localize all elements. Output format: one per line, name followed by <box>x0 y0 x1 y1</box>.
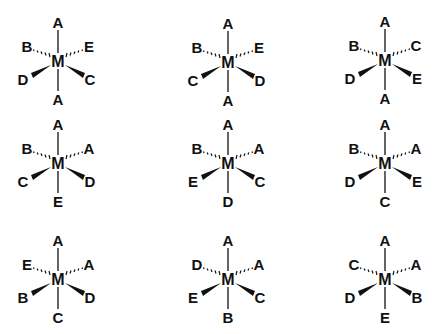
ligand-top: A <box>223 116 234 133</box>
ligand-top: A <box>380 13 391 30</box>
ligand-hash-right: E <box>254 39 264 56</box>
structure-5: M A D B A E C <box>188 116 266 210</box>
ligand-hash-right: E <box>84 38 94 55</box>
structure-4: M A E B A C D <box>18 116 96 210</box>
structure-9: M A E C A D B <box>345 232 423 326</box>
ligand-hash-right: A <box>254 140 265 157</box>
ligand-bottom: E <box>380 309 390 326</box>
ligand-wedge-right: C <box>85 71 96 88</box>
ligand-hash-left: B <box>349 140 360 157</box>
ligand-wedge-left: C <box>188 72 199 89</box>
ligand-wedge-right: E <box>412 70 422 87</box>
ligand-wedge-left: E <box>188 173 198 190</box>
ligand-bottom: C <box>53 309 64 326</box>
metal-center: M <box>378 155 391 172</box>
ligand-hash-right: A <box>84 256 95 273</box>
ligand-hash-right: C <box>411 37 422 54</box>
ligand-top: A <box>380 232 391 249</box>
ligand-bottom: C <box>380 193 391 210</box>
ligand-bottom: D <box>223 193 234 210</box>
ligand-wedge-left: C <box>18 173 29 190</box>
structure-3: M A A B C D E <box>345 13 422 107</box>
ligand-wedge-right: D <box>85 173 96 190</box>
ligand-top: A <box>380 116 391 133</box>
ligand-wedge-left: D <box>345 173 356 190</box>
metal-center: M <box>221 271 234 288</box>
ligand-hash-left: B <box>22 38 33 55</box>
ligand-wedge-right: B <box>412 289 423 306</box>
ligand-bottom: A <box>223 92 234 109</box>
metal-center: M <box>51 271 64 288</box>
metal-center: M <box>221 54 234 71</box>
ligand-wedge-right: D <box>255 72 266 89</box>
ligand-bottom: E <box>53 193 63 210</box>
ligand-hash-right: A <box>411 256 422 273</box>
ligand-hash-left: C <box>349 256 360 273</box>
structure-1: M A A B E D C <box>18 14 96 108</box>
ligand-wedge-left: B <box>18 289 29 306</box>
structure-7: M A C E A B D <box>18 232 96 326</box>
ligand-wedge-left: E <box>188 289 198 306</box>
ligand-hash-left: B <box>192 140 203 157</box>
ligand-hash-left: B <box>192 39 203 56</box>
ligand-top: A <box>53 232 64 249</box>
ligand-hash-right: A <box>411 140 422 157</box>
ligand-hash-right: A <box>254 256 265 273</box>
structure-6: M A C B A D E <box>345 116 422 210</box>
ligand-hash-left: E <box>22 256 32 273</box>
ligand-top: A <box>223 232 234 249</box>
ligand-wedge-left: D <box>345 289 356 306</box>
structure-2: M A A B E C D <box>188 15 266 109</box>
isomer-diagram: M A A B E D C M A A B E C D M A A B C D … <box>0 0 436 334</box>
ligand-bottom: A <box>53 91 64 108</box>
ligand-wedge-left: D <box>18 71 29 88</box>
ligand-hash-right: A <box>84 140 95 157</box>
ligand-bottom: A <box>380 90 391 107</box>
ligand-hash-left: B <box>22 140 33 157</box>
ligand-top: A <box>53 116 64 133</box>
ligand-top: A <box>223 15 234 32</box>
metal-center: M <box>221 155 234 172</box>
ligand-wedge-right: C <box>255 289 266 306</box>
ligand-hash-left: D <box>192 256 203 273</box>
metal-center: M <box>51 53 64 70</box>
ligand-bottom: B <box>223 309 234 326</box>
ligand-wedge-right: E <box>412 173 422 190</box>
ligand-top: A <box>53 14 64 31</box>
structure-8: M A B D A E C <box>188 232 266 326</box>
metal-center: M <box>378 271 391 288</box>
ligand-wedge-right: C <box>255 173 266 190</box>
ligand-wedge-left: D <box>345 70 356 87</box>
ligand-wedge-right: D <box>85 289 96 306</box>
metal-center: M <box>51 155 64 172</box>
ligand-hash-left: B <box>349 37 360 54</box>
metal-center: M <box>378 52 391 69</box>
